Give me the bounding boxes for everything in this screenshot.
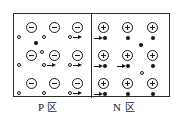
- acceptor-ion: [72, 78, 83, 89]
- hole-carrier: [42, 91, 46, 95]
- acceptor-ion: [49, 50, 60, 61]
- acceptor-ion: [26, 22, 37, 33]
- donor-ion: [147, 50, 158, 61]
- n-region-caption-letter: N: [113, 101, 125, 113]
- donor-ion: [147, 22, 158, 33]
- hole-carrier: [17, 63, 21, 67]
- electron-carrier: [126, 92, 130, 96]
- hole-drift-arrow: [73, 35, 82, 40]
- donor-ion: [98, 22, 109, 33]
- hole-carrier: [17, 35, 21, 39]
- donor-ion: [122, 50, 133, 61]
- p-region-area: [14, 14, 91, 98]
- n-region-area: [92, 14, 171, 98]
- hole-carrier: [42, 35, 46, 39]
- electron-carrier: [151, 92, 155, 96]
- donor-ion: [98, 50, 109, 61]
- electron-carrier: [103, 92, 107, 96]
- hole-drift-arrow: [47, 63, 56, 68]
- acceptor-ion: [72, 22, 83, 33]
- acceptor-ion: [26, 50, 37, 61]
- electron-carrier: [103, 64, 107, 68]
- acceptor-ion: [49, 78, 60, 89]
- hole-carrier: [40, 50, 44, 54]
- hole-drift-arrow: [73, 91, 82, 96]
- electron-carrier: [103, 36, 107, 40]
- acceptor-ion: [72, 50, 83, 61]
- hole-carrier: [17, 91, 21, 95]
- pn-junction-figure: P 区 N 区: [0, 0, 179, 123]
- donor-ion: [98, 78, 109, 89]
- n-region-caption: N 区: [113, 100, 135, 115]
- donor-ion: [122, 78, 133, 89]
- electron-drift-arrow: [94, 92, 103, 97]
- minority-electron: [34, 41, 38, 45]
- electron-carrier: [151, 36, 155, 40]
- acceptor-ion: [26, 78, 37, 89]
- p-region-caption-cjk: 区: [47, 102, 58, 113]
- hole-carrier: [42, 63, 46, 67]
- electron-carrier: [151, 64, 155, 68]
- acceptor-ion: [49, 22, 60, 33]
- hole-carrier: [68, 91, 72, 95]
- electron-drift-arrow: [117, 64, 126, 69]
- minority-hole: [140, 71, 144, 75]
- p-region-caption: P 区: [38, 100, 58, 115]
- semiconductor-bar-frame: [13, 13, 170, 97]
- electron-drift-arrow: [94, 64, 103, 69]
- electron-drift-arrow: [94, 36, 103, 41]
- electron-carrier: [126, 36, 130, 40]
- donor-ion: [147, 78, 158, 89]
- hole-carrier: [68, 35, 72, 39]
- donor-ion: [122, 22, 133, 33]
- hole-drift-arrow: [73, 63, 82, 68]
- electron-carrier: [126, 64, 130, 68]
- n-region-caption-cjk: 区: [125, 102, 136, 113]
- electron-carrier: [139, 43, 143, 47]
- hole-carrier: [68, 63, 72, 67]
